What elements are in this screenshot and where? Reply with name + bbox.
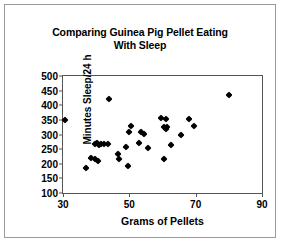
data-point [225,91,232,98]
y-tick-mark [59,163,63,164]
data-point [144,144,151,151]
data-point [162,115,169,122]
chart-title-line-2: With Sleep [20,39,260,52]
y-tick-mark [59,134,63,135]
data-point [124,162,131,169]
y-tick-mark [59,76,63,77]
x-axis-label: Grams of Pellets [63,215,262,227]
chart-title: Comparing Guinea Pig Pellet Eating With … [20,26,260,52]
x-tick-mark [196,193,197,197]
data-point [161,156,168,163]
data-point [122,144,129,151]
data-point [190,122,197,129]
x-tick-label: 90 [256,199,267,210]
data-point [177,131,184,138]
y-tick-label: 250 [41,144,58,155]
y-tick-label: 150 [41,173,58,184]
data-point [83,165,90,172]
x-tick-label: 50 [124,199,135,210]
data-point [106,96,113,103]
y-tick-label: 450 [41,85,58,96]
data-point [116,156,123,163]
x-tick-label: 70 [190,199,201,210]
y-tick-label: 500 [41,71,58,82]
plot-area: Minutes Sleep/24 h Grams of Pellets 1001… [62,75,263,194]
data-point [185,115,192,122]
data-point [167,141,174,148]
y-tick-mark [59,90,63,91]
x-tick-mark [262,193,263,197]
chart-title-line-1: Comparing Guinea Pig Pellet Eating [20,26,260,39]
y-tick-mark [59,149,63,150]
data-point [141,130,148,137]
y-tick-label: 350 [41,114,58,125]
data-point [136,140,143,147]
y-tick-label: 300 [41,129,58,140]
x-tick-mark [129,193,130,197]
y-tick-label: 100 [41,188,58,199]
y-tick-label: 400 [41,100,58,111]
y-tick-mark [59,178,63,179]
x-tick-label: 30 [57,199,68,210]
data-point [104,140,111,147]
data-point [61,116,68,123]
data-point [94,157,101,164]
data-point [126,128,133,135]
y-tick-label: 200 [41,158,58,169]
y-axis-label: Minutes Sleep/24 h [82,40,93,160]
x-tick-mark [63,193,64,197]
y-tick-mark [59,105,63,106]
scatter-plot-figure: Comparing Guinea Pig Pellet Eating With … [0,0,281,243]
